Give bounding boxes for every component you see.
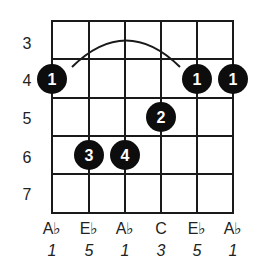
- fret-number: 6: [23, 149, 32, 166]
- chord-diagram: 3 4 5 6 7 1 1 1 2 3 4 A♭: [0, 0, 257, 276]
- interval-label: 3: [157, 242, 166, 259]
- finger-dot: 2: [146, 102, 176, 132]
- note-name: A♭: [224, 220, 243, 237]
- interval-label: 1: [48, 242, 57, 259]
- finger-dot: 1: [218, 64, 248, 94]
- finger-dot: 4: [110, 140, 140, 170]
- finger-dots: 1 1 1 2 3 4: [37, 64, 248, 170]
- note-name: E♭: [80, 220, 99, 237]
- finger-dot: 1: [182, 64, 212, 94]
- note-name: C: [155, 220, 167, 237]
- fret-number: 3: [23, 35, 32, 52]
- grid-border: [52, 21, 233, 213]
- note-name: A♭: [116, 220, 135, 237]
- interval-label: 1: [229, 242, 238, 259]
- finger-number: 4: [121, 147, 130, 164]
- finger-dot: 3: [74, 140, 104, 170]
- finger-number: 1: [229, 71, 238, 88]
- fretboard-grid: [52, 21, 233, 213]
- interval-label: 1: [121, 242, 130, 259]
- finger-number: 1: [48, 71, 57, 88]
- interval-label: 5: [193, 242, 202, 259]
- interval-label: 5: [85, 242, 94, 259]
- finger-number: 1: [193, 71, 202, 88]
- fret-number: 5: [23, 110, 32, 127]
- fret-numbers: 3 4 5 6 7: [23, 35, 32, 203]
- note-name: E♭: [188, 220, 207, 237]
- finger-number: 3: [85, 147, 94, 164]
- finger-number: 2: [157, 109, 166, 126]
- note-name: A♭: [43, 220, 62, 237]
- interval-labels: 1 5 1 3 5 1: [48, 242, 238, 259]
- finger-dot: 1: [37, 64, 67, 94]
- fret-number: 7: [23, 186, 32, 203]
- fret-number: 4: [23, 72, 32, 89]
- note-names: A♭ E♭ A♭ C E♭ A♭: [43, 220, 243, 237]
